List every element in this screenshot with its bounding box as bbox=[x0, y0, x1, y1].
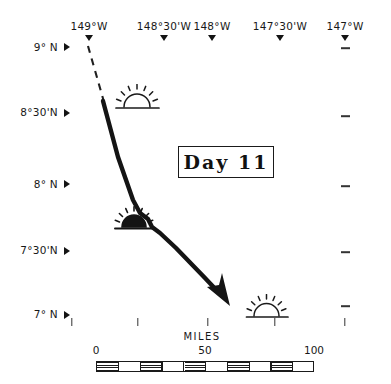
bottom-tick-icon bbox=[344, 318, 345, 326]
latitude-tick-icon bbox=[64, 180, 70, 188]
bottom-tick-icon bbox=[71, 318, 72, 326]
sunset-icon bbox=[112, 206, 160, 234]
scale-segment bbox=[185, 362, 206, 370]
scale-divider bbox=[140, 361, 141, 372]
scale-tick-label: 50 bbox=[198, 344, 211, 356]
day-label-box: Day 11 bbox=[178, 146, 274, 178]
scale-segment bbox=[141, 362, 162, 370]
edge-tick-icon bbox=[341, 47, 350, 49]
longitude-tick-icon bbox=[208, 35, 216, 41]
edge-tick-icon bbox=[341, 115, 350, 117]
longitude-tick-icon bbox=[276, 35, 284, 41]
sunrise-marker bbox=[112, 84, 164, 118]
scale-segment bbox=[228, 362, 249, 370]
latitude-tick-icon bbox=[64, 247, 70, 255]
longitude-label: 148°30'W bbox=[137, 20, 191, 32]
latitude-tick-icon bbox=[64, 109, 70, 117]
scale-divider bbox=[205, 361, 206, 372]
longitude-label: 147°30'W bbox=[253, 20, 307, 32]
edge-tick-icon bbox=[341, 251, 350, 253]
day-label-text: Day 11 bbox=[184, 151, 269, 173]
navigation-chart: 149°W 148°30'W 148°W 147°30'W 147°W 9° N… bbox=[0, 0, 391, 384]
latitude-label: 9° N bbox=[6, 41, 58, 53]
scale-divider bbox=[183, 361, 184, 372]
longitude-label: 147°W bbox=[326, 20, 363, 32]
scale-tick-label: 0 bbox=[93, 344, 100, 356]
latitude-tick-icon bbox=[64, 311, 70, 319]
track-dashed-segment bbox=[88, 46, 104, 102]
bottom-tick-icon bbox=[207, 318, 208, 326]
edge-tick-icon bbox=[341, 185, 350, 187]
scale-divider bbox=[118, 361, 119, 372]
edge-tick-icon bbox=[341, 305, 350, 307]
latitude-label: 7°30'N bbox=[2, 244, 58, 256]
sunrise-icon bbox=[112, 84, 164, 114]
sunrise-icon bbox=[243, 294, 293, 323]
longitude-tick-icon bbox=[341, 35, 349, 41]
scale-segment bbox=[272, 362, 293, 370]
longitude-label: 149°W bbox=[70, 20, 107, 32]
track-arrowhead-icon bbox=[207, 273, 230, 306]
scale-divider bbox=[270, 361, 271, 372]
scale-divider bbox=[292, 361, 293, 372]
scale-tick-label: 100 bbox=[304, 344, 324, 356]
scale-divider bbox=[161, 361, 162, 372]
bottom-tick-icon bbox=[137, 318, 138, 326]
latitude-label: 7° N bbox=[6, 308, 58, 320]
scale-divider bbox=[249, 361, 250, 372]
vessel-track-layer bbox=[0, 0, 391, 384]
track-solid-segment bbox=[103, 101, 222, 296]
scale-caption: MILES bbox=[184, 331, 221, 342]
longitude-label: 148°W bbox=[193, 20, 230, 32]
latitude-label: 8°30'N bbox=[2, 106, 58, 118]
scale-segment bbox=[97, 362, 118, 370]
sunset-marker bbox=[112, 206, 160, 238]
latitude-tick-icon bbox=[64, 43, 70, 51]
longitude-tick-icon bbox=[160, 35, 168, 41]
scale-divider bbox=[227, 361, 228, 372]
sunrise-marker-2 bbox=[243, 294, 293, 327]
latitude-label: 8° N bbox=[6, 178, 58, 190]
longitude-tick-icon bbox=[85, 35, 93, 41]
